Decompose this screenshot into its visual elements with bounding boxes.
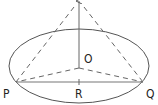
label-o: O bbox=[84, 52, 93, 66]
dashed-radius-oq bbox=[79, 68, 143, 82]
label-q: Q bbox=[146, 87, 155, 101]
dashed-edge-apex-q bbox=[84, 7, 143, 82]
dashed-radius-op bbox=[16, 68, 79, 82]
label-r: R bbox=[75, 87, 83, 101]
cone-diagram: O P R Q bbox=[0, 0, 158, 105]
label-p: P bbox=[3, 87, 10, 101]
